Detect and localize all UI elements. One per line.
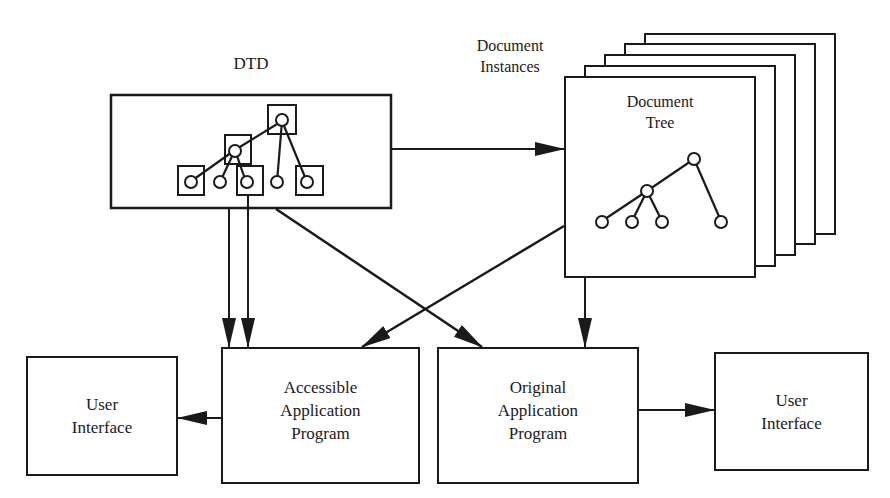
document-instances-label: Document Instances (460, 35, 560, 77)
original-line3: Program (509, 422, 568, 445)
document-instances-label-line1: Document (460, 35, 560, 56)
document-instances-label-line2: Instances (460, 56, 560, 77)
user-interface-right-label: User Interface (715, 353, 868, 470)
document-tree-label-line2: Tree (600, 112, 720, 133)
document-tree-label-line1: Document (600, 91, 720, 112)
user-interface-left-line1: User (86, 393, 118, 416)
accessible-line3: Program (291, 422, 350, 445)
user-interface-left-label: User Interface (27, 357, 177, 475)
dtd-box (111, 95, 391, 208)
accessible-line1: Accessible (284, 376, 358, 399)
user-interface-left-line2: Interface (72, 416, 132, 439)
accessible-application-program-label: Accessible Application Program (222, 348, 419, 472)
original-line1: Original (510, 376, 567, 399)
original-application-program-label: Original Application Program (438, 348, 638, 472)
accessible-line2: Application (280, 399, 360, 422)
document-tree-label: Document Tree (600, 91, 720, 133)
user-interface-right-line2: Interface (761, 412, 821, 435)
arrow-dtd-to-original (276, 209, 482, 347)
user-interface-right-line1: User (775, 389, 807, 412)
dtd-label: DTD (211, 53, 291, 75)
original-line2: Application (498, 399, 578, 422)
